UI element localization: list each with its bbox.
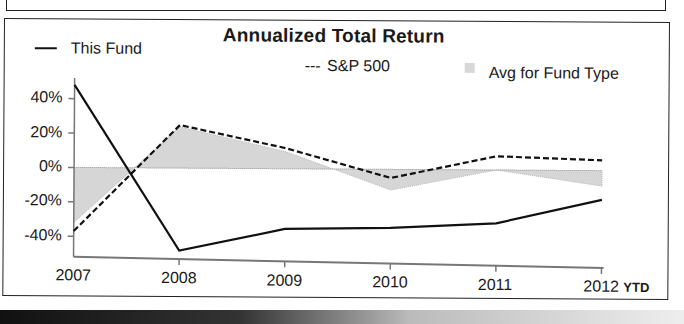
plot-area xyxy=(3,19,669,299)
upper-panel-frame xyxy=(6,0,666,11)
scan-edge-shadow xyxy=(0,310,684,324)
x-axis-line xyxy=(73,257,603,268)
chart-frame: Annualized Total Return This Fund --- S&… xyxy=(2,18,670,300)
